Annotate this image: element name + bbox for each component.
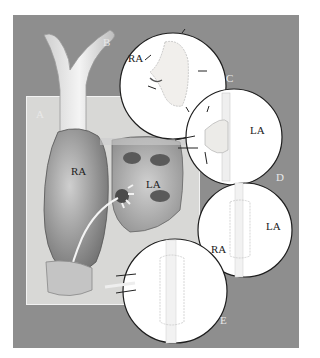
label-d: D	[276, 171, 284, 183]
label-c: C	[226, 72, 233, 84]
label-e: E	[220, 314, 227, 326]
inset-la-label: LA	[266, 220, 281, 232]
inset-c-ra-label: RA	[128, 52, 143, 64]
main-ra-label: RA	[71, 165, 86, 177]
inset-d-la-label: LA	[250, 124, 265, 136]
label-a: A	[36, 108, 44, 120]
inset-e-circle	[105, 239, 227, 343]
main-la-label: LA	[146, 178, 161, 190]
label-b: B	[103, 36, 110, 48]
inset-ra-label: RA	[211, 243, 226, 255]
